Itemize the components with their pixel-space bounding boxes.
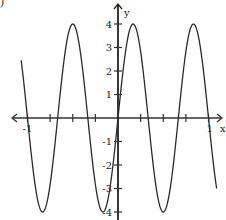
- function-graph: yx-114321-1-2-3-4: [0, 0, 225, 220]
- y-tick-label: 1: [106, 89, 112, 100]
- x-axis-label: x: [220, 123, 225, 134]
- axes: [12, 4, 222, 220]
- y-tick-label: 2: [106, 66, 112, 77]
- y-tick-label: 3: [106, 42, 112, 53]
- y-tick-label: -2: [102, 160, 112, 171]
- y-tick-label: -1: [102, 136, 112, 147]
- x-tick-label: -1: [23, 123, 33, 134]
- y-tick-label: 4: [106, 19, 112, 30]
- y-axis-label: y: [123, 7, 130, 18]
- tick-labels: yx-114321-1-2-3-4: [23, 7, 226, 218]
